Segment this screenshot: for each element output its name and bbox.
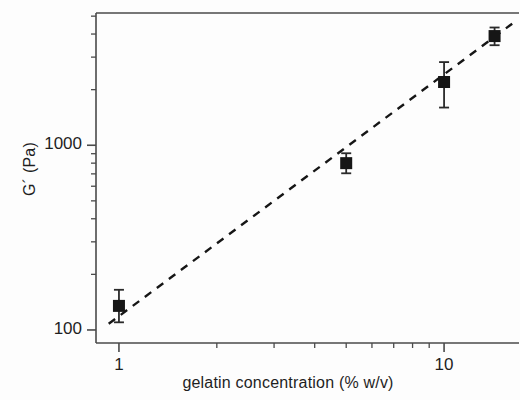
- y-tick-label: 1000: [0, 134, 82, 154]
- data-marker-square: [438, 76, 450, 88]
- chart-figure: G´ (Pa) gelatin concentration (% w/v) 10…: [0, 0, 520, 400]
- x-tick-label: 10: [404, 355, 484, 375]
- x-tick-label: 1: [79, 355, 159, 375]
- data-point-group: [340, 153, 352, 173]
- y-axis-label: G´ (Pa): [21, 109, 39, 229]
- data-point-group: [113, 290, 125, 323]
- x-axis-label: gelatin concentration (% w/v): [0, 374, 520, 392]
- data-point-group: [438, 62, 450, 107]
- data-marker-square: [113, 300, 125, 312]
- data-marker-square: [489, 30, 501, 42]
- y-tick-label: 100: [0, 319, 82, 339]
- plot-canvas: [0, 0, 520, 400]
- data-point-group: [489, 28, 501, 46]
- fit-line: [109, 24, 512, 324]
- data-marker-square: [340, 157, 352, 169]
